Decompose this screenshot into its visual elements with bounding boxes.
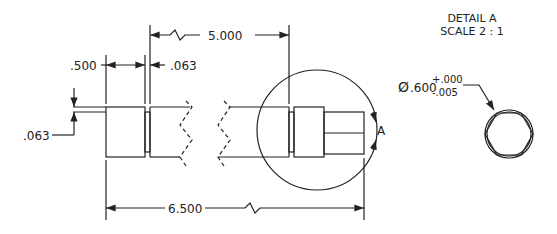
detail-scale: SCALE 2 : 1 <box>440 25 503 38</box>
detail-title: DETAIL A <box>447 12 497 25</box>
detail-circle-outer <box>485 110 533 158</box>
engineering-drawing: .500 .063 5.000 6.500 .063 A DETAIL A SC… <box>0 0 557 234</box>
break-line-right <box>218 101 230 166</box>
dim-overall-length: 6.500 <box>168 202 202 216</box>
collar-body <box>106 107 145 157</box>
tol-lower: -.005 <box>432 87 458 98</box>
groove <box>145 112 150 152</box>
dim-collar-width: .500 <box>70 59 97 73</box>
drawing-svg: .500 .063 5.000 6.500 .063 A DETAIL A SC… <box>0 0 557 234</box>
detail-callout-label: A <box>377 124 386 138</box>
break-line-left <box>180 101 192 166</box>
tol-upper: +.000 <box>432 74 463 85</box>
dim-groove-width: .063 <box>170 59 197 73</box>
detail-circle <box>257 70 377 190</box>
diameter-symbol: Ø <box>398 79 409 95</box>
dim-groove-depth: .063 <box>23 129 50 143</box>
end-collar <box>294 107 324 157</box>
dim-shaft-length: 5.000 <box>208 29 242 43</box>
